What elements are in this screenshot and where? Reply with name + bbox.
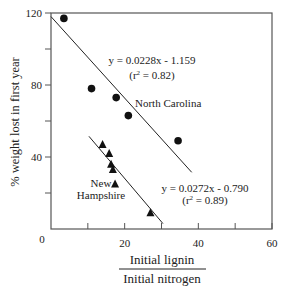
x-axis-label-numerator: Initial lignin [130, 252, 195, 267]
x-axis-label-denominator: Initial nitrogen [123, 271, 201, 286]
x-tick-label: 20 [119, 237, 131, 249]
nc-data-point [88, 85, 96, 93]
nh-data-point [105, 149, 113, 157]
nc-data-point [60, 15, 68, 23]
nc-r2: (r2 = 0.82) [129, 69, 175, 82]
x-tick-label: 60 [267, 237, 279, 249]
y-tick-label: 120 [26, 7, 43, 19]
nh-r2: (r2 = 0.89) [182, 194, 228, 207]
nc-data-point [174, 137, 182, 145]
scatter-chart: 02040604080120 y = 0.0228x - 1.159 (r2 =… [0, 0, 286, 292]
nh-label-line1: New [91, 177, 112, 189]
nc-regression-line [51, 17, 192, 173]
nc-label: North Carolina [135, 97, 201, 109]
nc-data-point [125, 112, 133, 120]
nh-label-line2: Hampshire [77, 189, 125, 201]
y-axis-label: % weight lost in first year [8, 56, 22, 186]
y-tick-label: 40 [31, 151, 43, 163]
x-tick-label: 40 [193, 237, 205, 249]
nh-data-point [111, 180, 119, 188]
y-tick-label: 80 [31, 79, 43, 91]
nc-data-point [112, 94, 120, 102]
nc-equation: y = 0.0228x - 1.159 [109, 54, 196, 66]
nh-data-point [99, 140, 107, 148]
nh-data-point [107, 160, 115, 168]
nh-equation: y = 0.0272x - 0.790 [162, 182, 249, 194]
x-tick-label: 0 [39, 233, 45, 245]
